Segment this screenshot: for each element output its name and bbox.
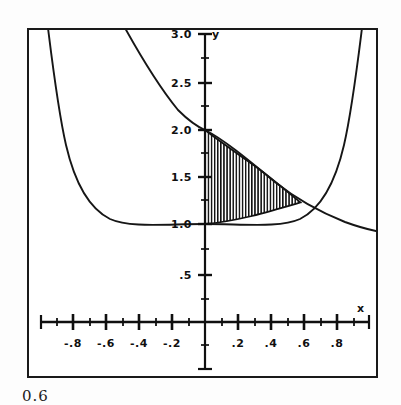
- caption-fragment: 0.6: [22, 387, 49, 405]
- x-tick-label--0.4: -.4: [124, 338, 154, 349]
- y-tick-label-2.0: 2.0: [150, 125, 192, 136]
- x-axis-label: x: [357, 303, 364, 314]
- x-tick-label-0.4: .4: [259, 338, 283, 349]
- x-tick-label-0.8: .8: [325, 338, 349, 349]
- y-tick-label-1.5: 1.5: [150, 172, 192, 183]
- y-tick-label-3.0: 3.0: [150, 29, 192, 40]
- x-tick-label-0.2: .2: [226, 338, 250, 349]
- x-tick-label-0.6: .6: [292, 338, 316, 349]
- y-tick-label-2.5: 2.5: [150, 78, 192, 89]
- figure-container: 3.0 2.5 2.0 1.5 1.0 .5 -.8 -.6 -.4 -.2 .…: [0, 0, 401, 405]
- x-tick-label--0.2: -.2: [157, 338, 187, 349]
- y-tick-label-0.5: .5: [150, 270, 192, 281]
- y-axis-label: y: [212, 29, 219, 40]
- y-tick-label-1.0: 1.0: [150, 219, 192, 230]
- x-tick-label--0.8: -.8: [58, 338, 88, 349]
- x-tick-label--0.6: -.6: [91, 338, 121, 349]
- shaded-region: [200, 125, 310, 235]
